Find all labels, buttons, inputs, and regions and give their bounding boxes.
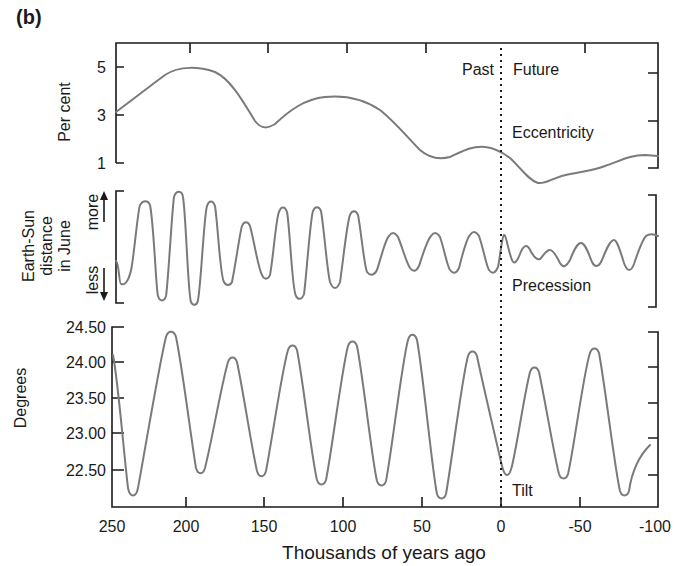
- tilt-ylabel: Degrees: [12, 368, 29, 428]
- precession-ylabel-line2: distance: [38, 216, 55, 276]
- tilt-frame: [112, 327, 658, 507]
- x-tick-150: 150: [251, 518, 278, 535]
- tilt-tick-2350: 23.50: [66, 390, 106, 407]
- ecc-tick-5: 5: [97, 59, 106, 76]
- tilt-tick-2300: 23.00: [66, 425, 106, 442]
- ecc-tick-3: 3: [97, 107, 106, 124]
- eccentricity-right-ticks: [648, 73, 658, 121]
- more-label: more: [84, 194, 101, 231]
- panel-label: (b): [16, 6, 42, 28]
- x-tick-200: 200: [173, 518, 200, 535]
- future-label: Future: [513, 61, 559, 78]
- eccentricity-panel: 5 3 1 Per cent Past Future Eccentricity: [56, 43, 658, 183]
- eccentricity-ylabel: Per cent: [56, 82, 73, 142]
- precession-ylabel-line1: Earth-Sun: [20, 210, 37, 282]
- tilt-curve: [113, 332, 650, 499]
- milankovitch-cycles-figure: (b) 5 3 1 Per cent Past Future Eccentric…: [0, 0, 678, 566]
- eccentricity-name: Eccentricity: [512, 124, 594, 141]
- past-label: Past: [462, 61, 495, 78]
- x-axis-title: Thousands of years ago: [282, 542, 486, 563]
- less-arrow-icon: [100, 268, 108, 301]
- tilt-left-ticks: [112, 362, 124, 470]
- more-arrow-icon: [100, 191, 108, 222]
- precession-ylabel-line3: in June: [56, 220, 73, 272]
- tilt-name: Tilt: [512, 482, 533, 499]
- precession-left-bracket: [116, 191, 124, 303]
- x-tick-50: 50: [413, 518, 431, 535]
- x-tick-100: 100: [330, 518, 357, 535]
- eccentricity-top-ticks: [190, 43, 585, 53]
- x-tick-minus50: -50: [568, 518, 591, 535]
- x-tick-250: 250: [99, 518, 126, 535]
- tilt-right-ticks: [648, 367, 658, 475]
- tilt-tick-2400: 24.00: [66, 354, 106, 371]
- tilt-tick-2250: 22.50: [66, 462, 106, 479]
- x-tick-minus100: -100: [639, 518, 671, 535]
- x-tick-0: 0: [497, 518, 506, 535]
- eccentricity-frame: [116, 43, 658, 168]
- less-label: less: [84, 266, 101, 294]
- x-axis: 250 200 150 100 50 0 -50 -100 Thousands …: [99, 518, 671, 563]
- precession-name: Precession: [512, 277, 591, 294]
- tilt-tick-2450: 24.50: [66, 319, 106, 336]
- precession-panel: more less Earth-Sun distance in June Pre…: [20, 191, 658, 307]
- ecc-tick-1: 1: [97, 155, 106, 172]
- precession-right-bracket: [648, 195, 656, 307]
